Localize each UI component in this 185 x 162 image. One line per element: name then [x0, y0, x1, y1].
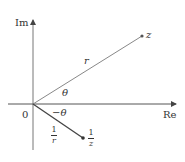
origin-label: 0	[22, 110, 28, 120]
real-axis-label: Re	[163, 110, 176, 120]
neg-theta-label: −θ	[52, 108, 66, 118]
inverse-z-numerator: 1	[88, 129, 93, 137]
r-label: r	[84, 56, 89, 66]
segment-r	[33, 36, 142, 104]
z-label: z	[146, 30, 151, 40]
theta-label: θ	[62, 88, 68, 98]
inverse-r-label: 1 r	[51, 126, 57, 145]
imaginary-axis-label: Im	[15, 18, 28, 28]
inverse-r-numerator: 1	[51, 126, 56, 134]
inverse-z-denominator: z	[89, 140, 93, 148]
inverse-r-denominator: r	[52, 137, 56, 145]
inverse-z-label: 1 z	[88, 129, 94, 148]
complex-plane-diagram: Im Re 0 z r θ −θ 1 r 1 z	[0, 0, 185, 162]
point-inverse-z	[81, 136, 85, 140]
point-z	[140, 34, 143, 37]
